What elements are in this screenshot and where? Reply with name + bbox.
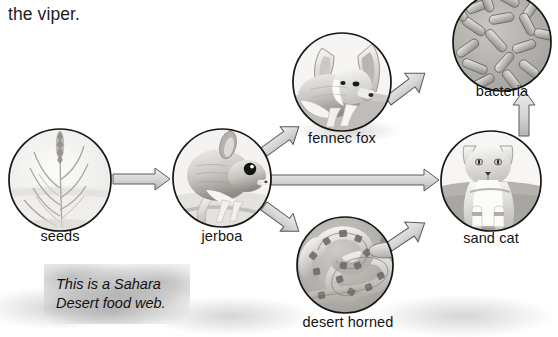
food-web-canvas	[0, 0, 558, 337]
node-label-jerboa: jerboa	[202, 228, 243, 244]
arrow-jerboa-to-sand-cat	[271, 169, 439, 191]
food-web-figure: the viper. This is a Sahara Desert food …	[0, 0, 558, 337]
node-label-seeds: seeds	[40, 228, 79, 244]
node-label-fennec-fox: fennec fox	[308, 130, 376, 146]
arrow-seeds-to-jerboa	[113, 168, 170, 190]
node-label-bacteria: bacteria	[476, 83, 528, 99]
node-art-sand-cat	[441, 131, 541, 234]
node-label-desert-horned-viper: desert horned	[303, 314, 394, 330]
node-art-fennec-fox	[293, 33, 391, 131]
node-label-sand-cat: sand cat	[463, 230, 519, 246]
node-art-seeds	[5, 129, 115, 232]
node-art-desert-horned-viper	[297, 217, 409, 313]
node-art-bacteria	[450, 0, 556, 93]
